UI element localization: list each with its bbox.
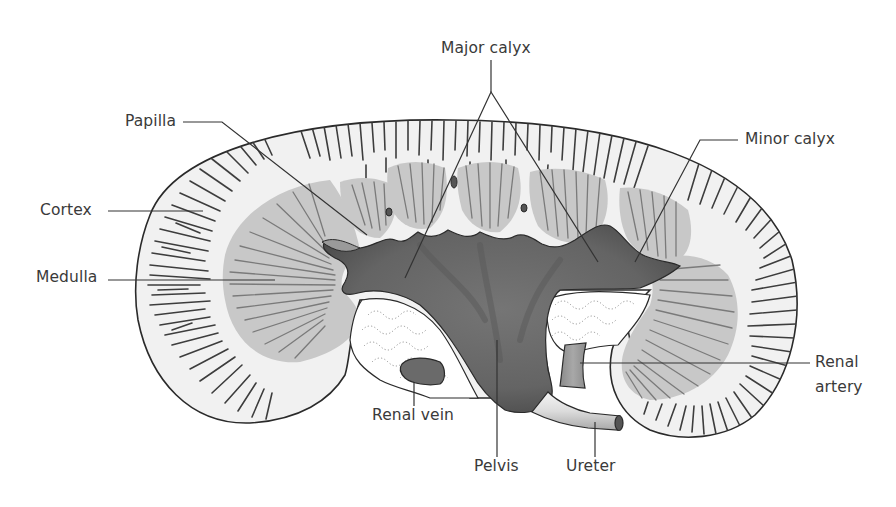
label-cortex: Cortex: [40, 201, 92, 220]
label-renal-vein: Renal vein: [372, 406, 454, 425]
label-pelvis: Pelvis: [474, 457, 519, 476]
ureter-opening: [615, 416, 623, 431]
label-papilla: Papilla: [125, 112, 176, 131]
label-ureter: Ureter: [566, 457, 616, 476]
label-medulla: Medulla: [36, 268, 97, 287]
label-renal-artery: Renal artery: [815, 350, 863, 400]
renal-artery: [560, 343, 586, 388]
label-minor-calyx: Minor calyx: [745, 130, 835, 149]
label-major-calyx: Major calyx: [441, 39, 531, 58]
ureter: [532, 392, 623, 431]
ureter-tube: [532, 392, 620, 430]
kidney-diagram: [0, 0, 896, 507]
